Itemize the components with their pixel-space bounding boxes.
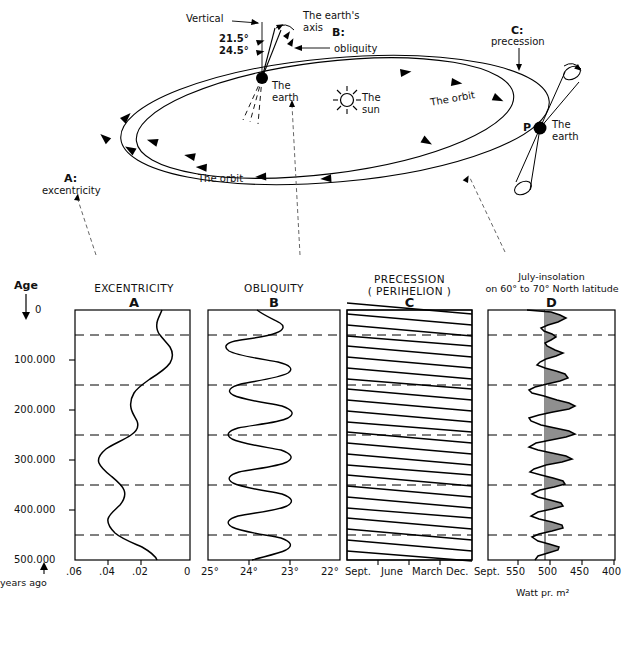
panel-B-letter: B bbox=[208, 296, 340, 311]
leader-lines bbox=[78, 105, 505, 255]
years-ago-label: years ago bbox=[0, 578, 47, 589]
panel-A-xtick-0: .06 bbox=[66, 566, 82, 578]
label-a-sub: excentricity bbox=[42, 185, 101, 197]
label-vertical: Vertical bbox=[186, 13, 223, 25]
age-tick-100: 100.000 bbox=[14, 354, 55, 366]
panel-A-title: EXCENTRICITY bbox=[78, 282, 190, 294]
panel-D-xtick-3: 400 bbox=[602, 566, 621, 578]
label-a-title: A: bbox=[64, 173, 77, 186]
age-tick-0: 0 bbox=[35, 304, 41, 316]
age-tick-200: 200.000 bbox=[14, 404, 55, 416]
panel-C-xtick-0: Sept. bbox=[345, 566, 371, 578]
label-perihelion-p: P bbox=[523, 122, 531, 135]
panel-C-xtick-2: March bbox=[412, 566, 442, 578]
orbit-diagram: Vertical The earth's axis 21.5° 24.5° B:… bbox=[0, 0, 628, 265]
age-tick-400: 400.000 bbox=[14, 504, 55, 516]
panel-B-title: OBLIQUITY bbox=[208, 282, 340, 294]
panel-A-xticks bbox=[108, 560, 141, 565]
panel-A-xtick-3: 0 bbox=[184, 566, 190, 578]
panel-D-xtick-1: 500 bbox=[538, 566, 557, 578]
panel-D-xtick-2: 450 bbox=[570, 566, 589, 578]
panel-D-letter: D bbox=[488, 296, 615, 311]
panel-B-xticks bbox=[249, 560, 290, 565]
panel-A-yticks bbox=[69, 360, 75, 510]
panel-D-title: July-insolation bbox=[488, 272, 615, 283]
panel-B-xtick-1: 24° bbox=[240, 566, 258, 578]
panel-A bbox=[69, 310, 190, 565]
orbit-ellipse-outer bbox=[115, 39, 554, 200]
panel-C-xtick-4: Sept. bbox=[474, 566, 500, 578]
orbit-ellipse-inner bbox=[130, 39, 521, 196]
panel-A-xtick-2: .02 bbox=[132, 566, 148, 578]
cycles-chart-block: Age years ago bbox=[0, 262, 628, 653]
panel-A-xtick-1: .04 bbox=[99, 566, 115, 578]
panel-B-xtick-0: 25° bbox=[201, 566, 219, 578]
panel-A-letter: A bbox=[78, 296, 190, 311]
panel-C-xtick-1: June bbox=[381, 566, 403, 578]
label-earth-center: The earth bbox=[272, 80, 299, 103]
panel-C-title: PRECESSION bbox=[347, 273, 472, 285]
panel-A-gridlines bbox=[75, 335, 190, 535]
panel-D bbox=[488, 310, 615, 565]
panel-D-unit: Watt pr. m² bbox=[516, 588, 569, 599]
sun-symbol bbox=[333, 86, 361, 114]
panel-D-subtitle: on 60° to 70° North latitude bbox=[470, 284, 628, 295]
panel-C-xticks bbox=[378, 560, 440, 565]
panel-C-sawtooth bbox=[347, 303, 472, 561]
panel-C-letter: C bbox=[347, 296, 472, 311]
label-sun: The sun bbox=[362, 92, 381, 115]
panel-C-xtick-3: Dec. bbox=[446, 566, 469, 578]
panel-C bbox=[347, 303, 472, 565]
label-c-sub: precession bbox=[491, 36, 545, 48]
panel-B bbox=[208, 310, 340, 565]
label-angle-245: 24.5° bbox=[219, 45, 249, 57]
panel-C-gridlines bbox=[347, 335, 472, 535]
earth-equator-dashes bbox=[243, 78, 262, 124]
panel-B-xtick-2: 23° bbox=[281, 566, 299, 578]
orbit-direction-arrows bbox=[98, 67, 505, 183]
panel-D-xtick-0: 550 bbox=[506, 566, 525, 578]
label-b-sub: obliquity bbox=[334, 43, 377, 55]
age-tick-500: 500.000 bbox=[14, 554, 55, 566]
label-b-title: B: bbox=[332, 27, 345, 40]
label-earth-right: The earth bbox=[552, 119, 579, 142]
panel-B-xtick-3: 22° bbox=[321, 566, 339, 578]
panel-D-xticks bbox=[518, 560, 614, 565]
age-tick-300: 300.000 bbox=[14, 454, 55, 466]
label-orbit-2: The orbit bbox=[198, 173, 243, 185]
label-angle-215: 21.5° bbox=[219, 33, 249, 45]
age-axis-label: Age bbox=[14, 280, 38, 293]
